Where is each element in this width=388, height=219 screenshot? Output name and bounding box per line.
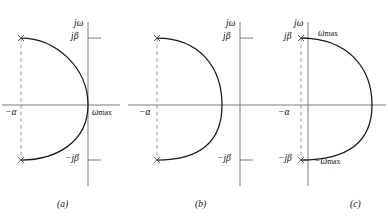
axis-label-j-omega: jω [226,19,235,29]
panel-b: jω jβ −jβ −α (b) [128,0,258,219]
contour-arc [301,38,372,160]
axis-label-minus-alpha: −α [139,108,150,118]
panel-c: jω jβ −jβ −α ωmax −ωmax (c) [256,0,388,219]
annotation-omega-max-upper: ωmax [318,29,338,39]
contour-arc [157,38,222,160]
tick-label-j-beta: jβ [284,32,291,42]
tick-label-j-beta: jβ [71,32,78,42]
panel-a: jω jβ −jβ −α ωmax (a) [0,0,130,219]
axis-label-j-omega: jω [294,19,303,29]
axis-label-minus-alpha: −α [5,108,16,118]
panel-a-caption: (a) [57,199,68,209]
tick-label-j-beta: jβ [223,32,230,42]
tick-label-minus-j-beta: −jβ [278,154,292,164]
tick-label-minus-j-beta: −jβ [65,154,79,164]
annotation-minus-omega-max-lower: −ωmax [314,157,340,167]
panel-c-caption: (c) [350,199,361,209]
contour-arc [21,38,88,160]
figure-root: jω jβ −jβ −α ωmax (a) [0,0,388,219]
tick-label-minus-j-beta: −jβ [217,154,231,164]
axis-label-minus-alpha: −α [278,108,289,118]
annotation-omega-max: ωmax [92,108,112,118]
panel-b-caption: (b) [195,199,206,209]
axis-label-j-omega: jω [74,19,83,29]
